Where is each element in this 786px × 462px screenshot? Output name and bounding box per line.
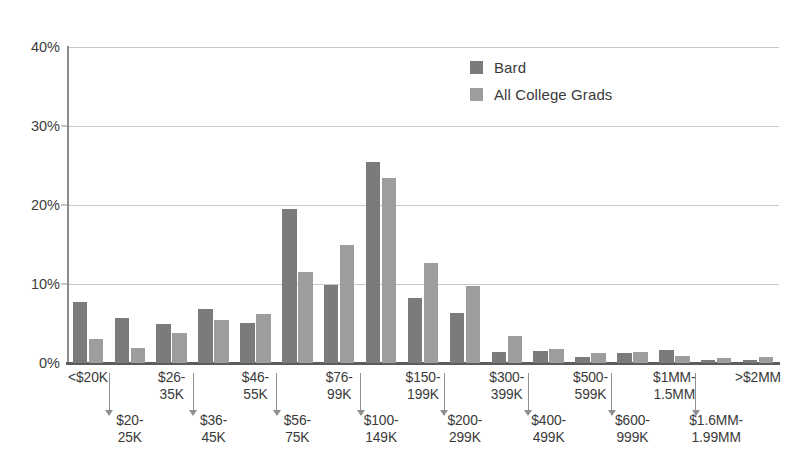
x-tick-label: $300- 399K — [465, 369, 549, 403]
bar — [717, 358, 732, 363]
x-label-arrow-icon — [109, 373, 110, 411]
x-tick-label: $1MM- 1.5MM — [632, 369, 716, 403]
bar — [340, 245, 355, 364]
bar — [743, 360, 758, 363]
bar — [633, 352, 648, 363]
bar — [675, 356, 690, 363]
bar — [89, 339, 104, 363]
bar — [466, 286, 481, 363]
bar — [172, 333, 187, 363]
bar — [240, 323, 255, 363]
x-tick-label: $36- 45K — [172, 412, 256, 446]
bar-group — [701, 47, 732, 363]
bar — [408, 298, 423, 363]
bar — [382, 178, 397, 363]
x-tick-label: $150- 199K — [381, 369, 465, 403]
x-tick-label: $20- 25K — [88, 412, 172, 446]
bar-group — [240, 47, 271, 363]
bar-group — [659, 47, 690, 363]
bar — [115, 318, 130, 363]
bar — [701, 360, 716, 363]
bar — [492, 352, 507, 363]
bar — [659, 350, 674, 363]
x-tick-label: >$2MM — [716, 369, 786, 386]
bar — [282, 209, 297, 363]
bar — [549, 349, 564, 363]
x-tick-label: $1.6MM- 1.99MM — [674, 412, 758, 446]
bar-group — [156, 47, 187, 363]
bar-group — [73, 47, 104, 363]
bar-group — [743, 47, 774, 363]
x-tick-label: <$20K — [46, 369, 130, 386]
bar — [533, 351, 548, 363]
bar — [366, 162, 381, 363]
x-label-arrow-icon — [695, 373, 696, 411]
bar — [575, 357, 590, 363]
bar-group — [366, 47, 397, 363]
bar — [256, 314, 271, 363]
bar — [131, 348, 146, 363]
y-tick-label-20: 20% — [8, 197, 60, 213]
bar — [759, 357, 774, 363]
x-tick-label: $56- 75K — [255, 412, 339, 446]
legend-label-all-college-grads: All College Grads — [494, 86, 612, 103]
bar — [450, 313, 465, 363]
x-axis-labels: <$20K$20- 25K$26- 35K$36- 45K$46- 55K$56… — [0, 365, 786, 462]
bar-group — [324, 47, 355, 363]
bar-group — [198, 47, 229, 363]
x-tick-label: $200- 299K — [423, 412, 507, 446]
legend-item-bard: Bard — [470, 55, 612, 79]
legend-item-all-college-grads: All College Grads — [470, 82, 612, 106]
bar — [214, 320, 229, 363]
x-label-arrow-icon — [360, 373, 361, 411]
legend-label-bard: Bard — [494, 59, 526, 76]
x-tick-label: $26- 35K — [130, 369, 214, 403]
bar — [617, 353, 632, 363]
bar — [324, 285, 339, 363]
y-tick-label-40: 40% — [8, 39, 60, 55]
bar-group — [115, 47, 146, 363]
bar — [156, 324, 171, 363]
bar — [424, 263, 439, 363]
x-label-arrow-icon — [611, 373, 612, 411]
bar — [73, 302, 88, 363]
x-label-arrow-icon — [444, 373, 445, 411]
bar-group — [408, 47, 439, 363]
x-tick-label: $100- 149K — [339, 412, 423, 446]
y-tick-label-10: 10% — [8, 276, 60, 292]
chart-legend: Bard All College Grads — [470, 55, 612, 109]
x-tick-label: $600- 999K — [590, 412, 674, 446]
x-tick-label: $76- 99K — [297, 369, 381, 403]
x-tick-label: $400- 499K — [507, 412, 591, 446]
legend-swatch-all-college-grads — [470, 88, 483, 101]
bar — [198, 309, 213, 364]
x-tick-label: $500- 599K — [549, 369, 633, 403]
bar — [591, 353, 606, 363]
x-label-arrow-icon — [193, 373, 194, 411]
bar — [298, 272, 313, 363]
income-distribution-bar-chart: 40% 30% 20% 10% 0% Bard All College Grad… — [0, 0, 786, 462]
y-tick-label-30: 30% — [8, 118, 60, 134]
bars-layer — [67, 47, 779, 363]
bar — [508, 336, 523, 363]
x-label-arrow-icon — [528, 373, 529, 411]
bar-group — [617, 47, 648, 363]
bar-group — [282, 47, 313, 363]
x-label-arrow-icon — [276, 373, 277, 411]
x-tick-label: $46- 55K — [213, 369, 297, 403]
legend-swatch-bard — [470, 61, 483, 74]
